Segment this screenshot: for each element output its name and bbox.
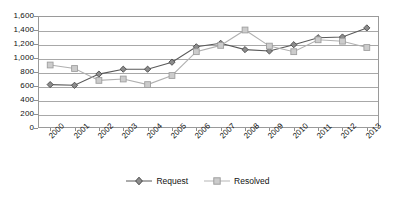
data-point-resolved-2003[interactable]: [120, 76, 126, 82]
data-point-request-2002[interactable]: [96, 71, 102, 77]
legend-marker-resolved-icon: [204, 176, 230, 186]
y-tick-label-400: 400: [0, 96, 34, 104]
data-point-resolved-2000[interactable]: [47, 62, 53, 68]
data-point-resolved-2004[interactable]: [145, 82, 151, 88]
y-axis: 02004006008001,0001,2001,4001,600: [0, 0, 34, 145]
line-chart: 02004006008001,0001,2001,4001,600 200020…: [0, 0, 396, 197]
data-point-request-2004[interactable]: [145, 66, 151, 72]
y-tick-label-600: 600: [0, 82, 34, 90]
x-axis: 2000200120022003200420052006200720082009…: [0, 128, 396, 168]
y-tick-label-800: 800: [0, 68, 34, 76]
data-point-resolved-2008[interactable]: [242, 27, 248, 33]
data-point-resolved-2010[interactable]: [291, 49, 297, 55]
data-point-resolved-2002[interactable]: [96, 78, 102, 84]
x-tick-mark-2002: [99, 128, 100, 131]
legend-label-resolved: Resolved: [234, 177, 269, 186]
y-tick-label-200: 200: [0, 110, 34, 118]
legend-item-request[interactable]: Request: [126, 176, 188, 186]
data-point-request-2013[interactable]: [364, 25, 370, 31]
data-point-resolved-2005[interactable]: [169, 73, 175, 79]
data-point-resolved-2013[interactable]: [364, 45, 370, 51]
data-point-request-2008[interactable]: [242, 47, 248, 53]
x-tick-mark-2008: [245, 128, 246, 131]
data-point-resolved-2009[interactable]: [266, 43, 272, 49]
x-tick-mark-2006: [196, 128, 197, 131]
data-point-request-2001[interactable]: [71, 82, 77, 88]
x-tick-mark-2004: [148, 128, 149, 131]
data-point-request-2010[interactable]: [291, 42, 297, 48]
data-point-resolved-2006[interactable]: [193, 49, 199, 55]
data-point-resolved-2012[interactable]: [340, 38, 346, 44]
x-tick-mark-2013: [367, 128, 368, 131]
x-tick-mark-2000: [50, 128, 51, 131]
chart-legend: Request Resolved: [0, 172, 396, 190]
legend-marker-request-icon: [126, 176, 152, 186]
y-tick-label-1400: 1,400: [0, 26, 34, 34]
x-tick-mark-2005: [172, 128, 173, 131]
x-tick-mark-2007: [221, 128, 222, 131]
y-tick-label-1600: 1,600: [0, 12, 34, 20]
data-point-resolved-2007[interactable]: [218, 43, 224, 49]
data-point-resolved-2001[interactable]: [72, 66, 78, 72]
x-tick-mark-2001: [75, 128, 76, 131]
y-tick-label-1000: 1,000: [0, 54, 34, 62]
data-point-request-2000[interactable]: [47, 82, 53, 88]
x-tick-mark-2003: [123, 128, 124, 131]
x-tick-mark-2009: [269, 128, 270, 131]
legend-label-request: Request: [156, 177, 188, 186]
data-point-request-2005[interactable]: [169, 59, 175, 65]
series-resolved: [47, 27, 369, 87]
y-tick-label-1200: 1,200: [0, 40, 34, 48]
data-point-resolved-2011[interactable]: [315, 37, 321, 43]
data-point-request-2003[interactable]: [120, 66, 126, 72]
x-tick-mark-2012: [342, 128, 343, 131]
x-tick-mark-2010: [294, 128, 295, 131]
legend-item-resolved[interactable]: Resolved: [204, 176, 269, 186]
x-tick-mark-2011: [318, 128, 319, 131]
data-series-layer: [38, 16, 379, 128]
